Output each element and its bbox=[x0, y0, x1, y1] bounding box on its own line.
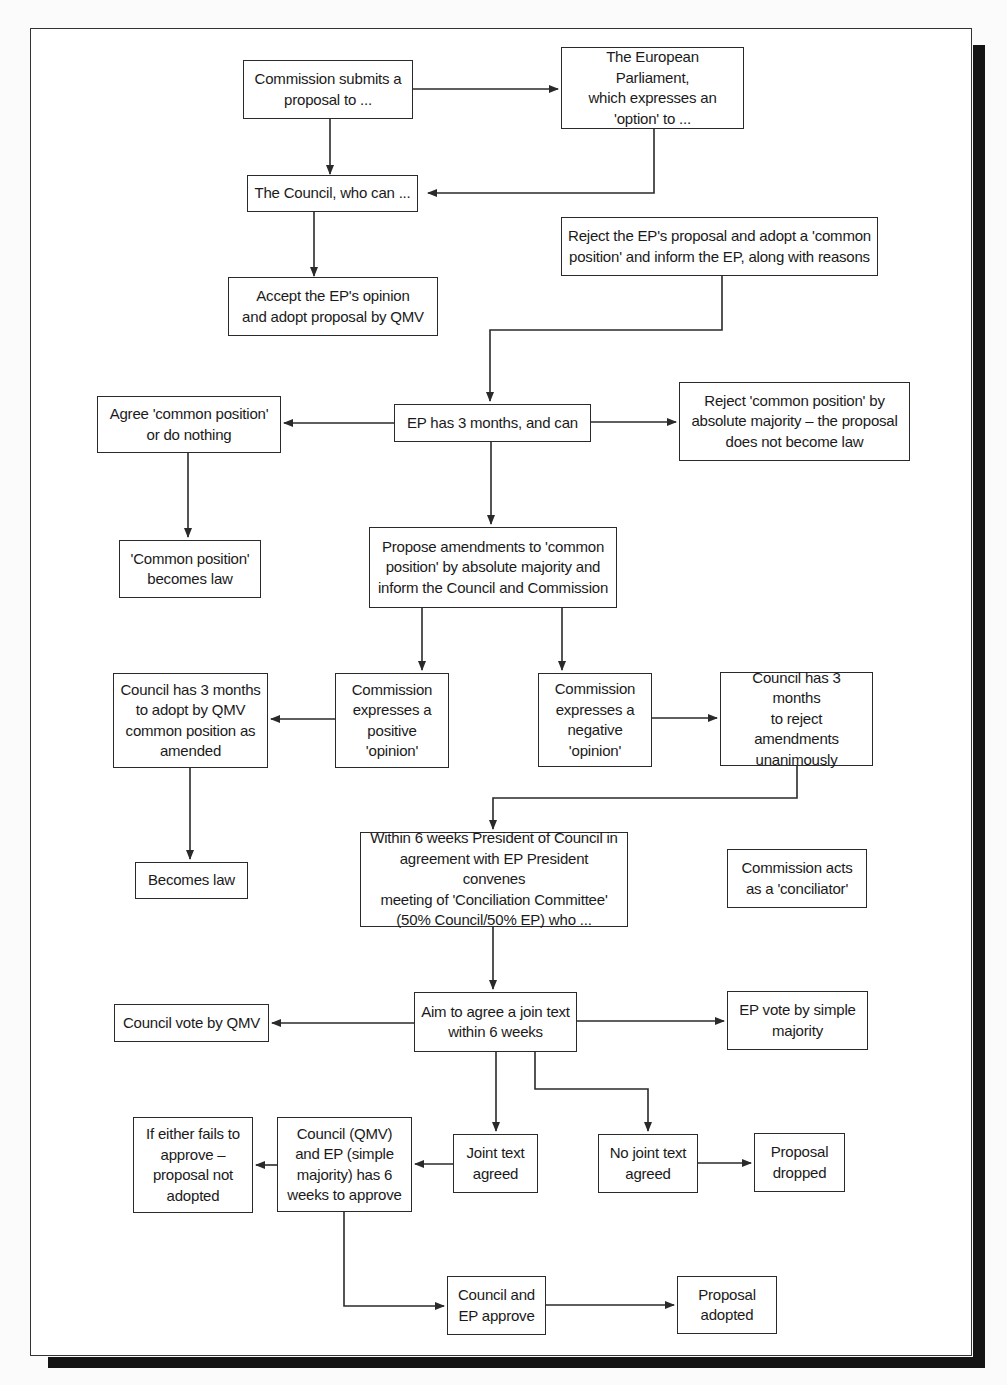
frame-shadow-right bbox=[973, 45, 985, 1368]
node-common-position-law: 'Common position' becomes law bbox=[119, 540, 261, 598]
node-conciliation-committee: Within 6 weeks President of Council in a… bbox=[360, 832, 628, 927]
node-proposal-adopted: Proposal adopted bbox=[677, 1276, 777, 1334]
frame-shadow-bottom bbox=[48, 1357, 985, 1368]
node-council-adopt-qmv: Council has 3 months to adopt by QMV com… bbox=[113, 673, 268, 768]
node-commission-positive: Commission expresses a positive 'opinion… bbox=[335, 673, 449, 768]
node-reject-common-position: Reject 'common position' by absolute maj… bbox=[679, 382, 910, 461]
node-council-who-can: The Council, who can ... bbox=[247, 175, 418, 212]
node-accept-ep-opinion: Accept the EP's opinion and adopt propos… bbox=[228, 277, 438, 336]
node-council-reject-unanimously: Council has 3 months to reject amendment… bbox=[720, 672, 873, 766]
node-propose-amendments: Propose amendments to 'common position' … bbox=[369, 527, 617, 608]
node-agree-common-position: Agree 'common position' or do nothing bbox=[97, 396, 281, 453]
node-joint-text-agreed: Joint text agreed bbox=[453, 1134, 538, 1193]
node-no-joint-text: No joint text agreed bbox=[598, 1134, 698, 1193]
node-becomes-law: Becomes law bbox=[135, 862, 248, 899]
node-ep-vote-simple: EP vote by simple majority bbox=[727, 991, 868, 1050]
node-council-vote-qmv: Council vote by QMV bbox=[114, 1004, 269, 1042]
node-commission-submits: Commission submits a proposal to ... bbox=[243, 60, 413, 119]
node-reject-ep-proposal: Reject the EP's proposal and adopt a 'co… bbox=[561, 217, 878, 276]
node-aim-joint-text: Aim to agree a join text within 6 weeks bbox=[414, 992, 577, 1052]
node-council-ep-six-weeks: Council (QMV) and EP (simple majority) h… bbox=[277, 1117, 412, 1212]
node-council-ep-approve: Council and EP approve bbox=[447, 1276, 546, 1335]
node-ep-three-months: EP has 3 months, and can bbox=[394, 404, 591, 442]
node-proposal-dropped: Proposal dropped bbox=[754, 1133, 845, 1192]
node-commission-conciliator: Commission acts as a 'conciliator' bbox=[727, 849, 867, 908]
node-european-parliament: The European Parliament, which expresses… bbox=[561, 47, 744, 129]
node-either-fails: If either fails to approve – proposal no… bbox=[133, 1117, 253, 1213]
node-commission-negative: Commission expresses a negative 'opinion… bbox=[538, 673, 652, 767]
